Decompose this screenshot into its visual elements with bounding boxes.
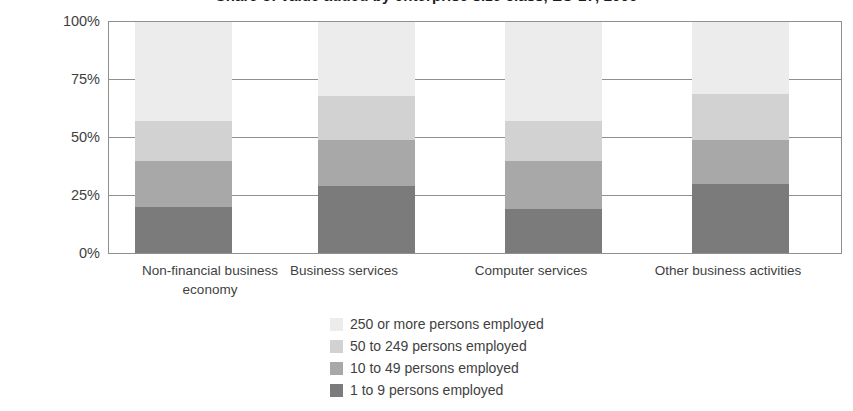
x-axis-label-line: economy: [120, 281, 300, 300]
bar-group-other-business-activities[interactable]: [692, 22, 789, 253]
legend-swatch-icon: [330, 362, 343, 375]
y-tick-label-75: 75%: [4, 72, 100, 87]
legend-item-50-to-249[interactable]: 50 to 249 persons employed: [330, 335, 760, 357]
stacked-bar-chart: Share of value added by enterprise size …: [0, 0, 853, 411]
bar-segment-10-to-49[interactable]: [692, 140, 789, 184]
y-tick-label-0: 0%: [4, 246, 100, 261]
bar-segment-250-plus[interactable]: [692, 22, 789, 94]
x-axis-label-line: Business services: [254, 262, 434, 281]
bar-segment-10-to-49[interactable]: [135, 161, 232, 207]
x-axis-label-line: Computer services: [441, 262, 621, 281]
bar-segment-1-to-9[interactable]: [692, 184, 789, 253]
legend-swatch-icon: [330, 340, 343, 353]
bar-stack: [505, 22, 602, 253]
bar-group-business-services[interactable]: [318, 22, 415, 253]
bar-group-non-financial-business-economy[interactable]: [135, 22, 232, 253]
y-axis: 100% 75% 50% 25% 0%: [0, 0, 100, 411]
bar-segment-1-to-9[interactable]: [318, 186, 415, 253]
legend: 250 or more persons employed 50 to 249 p…: [330, 313, 760, 401]
bar-group-computer-services[interactable]: [505, 22, 602, 253]
legend-item-1-to-9[interactable]: 1 to 9 persons employed: [330, 379, 760, 401]
legend-label: 10 to 49 persons employed: [350, 361, 519, 375]
legend-label: 1 to 9 persons employed: [350, 383, 503, 397]
x-axis-label-line: Other business activities: [628, 262, 828, 281]
bar-stack: [318, 22, 415, 253]
bar-segment-10-to-49[interactable]: [318, 140, 415, 186]
bars-layer: [109, 22, 841, 253]
bar-segment-50-to-249[interactable]: [318, 96, 415, 140]
plot-area: [108, 21, 842, 254]
bar-segment-250-plus[interactable]: [318, 22, 415, 96]
bar-stack: [692, 22, 789, 253]
legend-label: 250 or more persons employed: [350, 317, 544, 331]
legend-swatch-icon: [330, 318, 343, 331]
bar-segment-250-plus[interactable]: [505, 22, 602, 121]
bar-segment-10-to-49[interactable]: [505, 161, 602, 210]
y-tick-label-25: 25%: [4, 188, 100, 203]
x-axis-label-computer-services: Computer services: [441, 262, 621, 281]
bar-stack: [135, 22, 232, 253]
legend-item-250-plus[interactable]: 250 or more persons employed: [330, 313, 760, 335]
x-axis-label-business-services: Business services: [254, 262, 434, 281]
bar-segment-50-to-249[interactable]: [135, 121, 232, 160]
legend-item-10-to-49[interactable]: 10 to 49 persons employed: [330, 357, 760, 379]
bar-segment-1-to-9[interactable]: [505, 209, 602, 253]
bar-segment-50-to-249[interactable]: [692, 94, 789, 140]
bar-segment-50-to-249[interactable]: [505, 121, 602, 160]
x-axis-label-other-business-activities: Other business activities: [628, 262, 828, 281]
legend-swatch-icon: [330, 384, 343, 397]
chart-title: Share of value added by enterprise size …: [0, 0, 853, 4]
bar-segment-1-to-9[interactable]: [135, 207, 232, 253]
legend-label: 50 to 249 persons employed: [350, 339, 527, 353]
bar-segment-250-plus[interactable]: [135, 22, 232, 121]
y-tick-label-50: 50%: [4, 130, 100, 145]
y-tick-label-100: 100%: [4, 14, 100, 29]
